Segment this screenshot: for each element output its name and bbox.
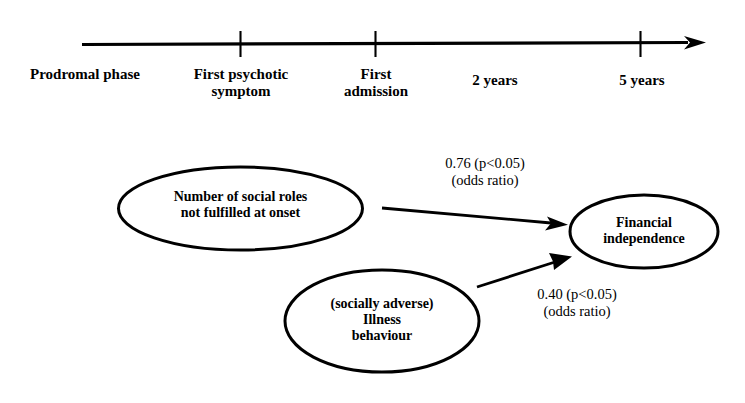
node-label-social-roles-line1: Number of social roles: [118, 189, 363, 205]
timeline-label-prodromal-phase: Prodromal phase: [22, 66, 148, 83]
timeline-axis-line: [82, 43, 688, 45]
timeline-label-2-years: 2 years: [450, 72, 540, 89]
node-label-illness-behaviour: (socially adverse) Illness behaviour: [285, 296, 479, 344]
edge-label-1-line1: 0.76 (p<0.05): [405, 155, 565, 172]
timeline-axis-group: [82, 31, 706, 57]
edge-label-2-line1: 0.40 (p<0.05): [497, 286, 657, 303]
timeline-label-5-years: 5 years: [597, 72, 687, 89]
edge-label-social-roles-to-financial-independence: 0.76 (p<0.05) (odds ratio): [405, 155, 565, 189]
node-label-illness-behaviour-line2: Illness: [285, 312, 479, 328]
node-label-illness-behaviour-line3: behaviour: [285, 328, 479, 344]
timeline-label-prodromal-phase-line1: Prodromal phase: [22, 66, 148, 83]
path-diagram-edges: [382, 208, 572, 287]
edge-line-illness-behaviour-to-financial-independence: [477, 262, 555, 287]
edge-line-social-roles-to-financial-independence: [382, 208, 551, 223]
timeline-label-first-admission: First admission: [321, 66, 431, 100]
timeline-label-first-admission-line1: First: [321, 66, 431, 83]
node-label-social-roles-line2: not fulfilled at onset: [118, 205, 363, 221]
edge-label-2-line2: (odds ratio): [497, 303, 657, 320]
edge-label-1-line2: (odds ratio): [405, 172, 565, 189]
timeline-label-first-psychotic-symptom-line1: First psychotic: [161, 66, 321, 83]
node-label-financial-independence: Financial independence: [570, 215, 718, 247]
edge-label-illness-behaviour-to-financial-independence: 0.40 (p<0.05) (odds ratio): [497, 286, 657, 320]
timeline-label-first-psychotic-symptom-line2: symptom: [161, 83, 321, 100]
node-label-financial-independence-line2: independence: [570, 231, 718, 247]
node-label-illness-behaviour-line1: (socially adverse): [285, 296, 479, 312]
figure-canvas: Prodromal phase First psychotic symptom …: [0, 0, 745, 403]
node-label-social-roles: Number of social roles not fulfilled at …: [118, 189, 363, 221]
node-label-financial-independence-line1: Financial: [570, 215, 718, 231]
timeline-label-2-years-line1: 2 years: [450, 72, 540, 89]
timeline-label-first-psychotic-symptom: First psychotic symptom: [161, 66, 321, 100]
timeline-label-5-years-line1: 5 years: [597, 72, 687, 89]
timeline-label-first-admission-line2: admission: [321, 83, 431, 100]
